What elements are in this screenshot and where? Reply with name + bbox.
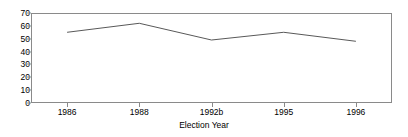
x-axis-tick-label: 1988 bbox=[130, 108, 149, 117]
y-axis-labels: 010203040506070 bbox=[0, 0, 30, 137]
y-axis-tick-label: 60 bbox=[0, 22, 30, 31]
x-axis-title: Election Year bbox=[0, 121, 408, 130]
y-axis-tick-label: 70 bbox=[0, 9, 30, 18]
line-chart: 010203040506070 198619881992b19951996 El… bbox=[0, 0, 408, 137]
plot-area bbox=[31, 13, 392, 103]
y-axis-tick-label: 20 bbox=[0, 73, 30, 82]
x-axis-tick-label: 1995 bbox=[274, 108, 293, 117]
y-axis-tick-label: 10 bbox=[0, 86, 30, 95]
y-axis-tick-label: 30 bbox=[0, 60, 30, 69]
y-axis-tick-label: 0 bbox=[0, 99, 30, 108]
y-axis-tick-label: 50 bbox=[0, 34, 30, 43]
x-axis-tick-label: 1986 bbox=[58, 108, 77, 117]
y-axis-tick-label: 40 bbox=[0, 47, 30, 56]
x-axis-tick-label: 1996 bbox=[346, 108, 365, 117]
x-axis-tick-label: 1992b bbox=[200, 108, 224, 117]
